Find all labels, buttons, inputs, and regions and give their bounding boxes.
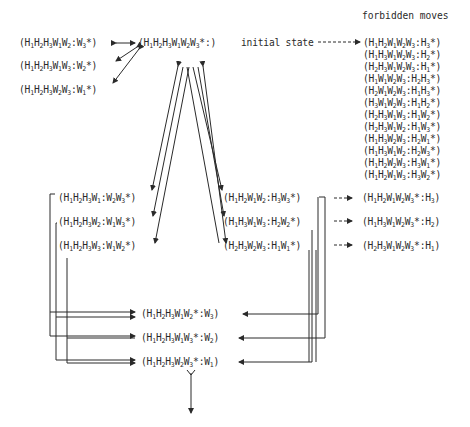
state-node: (H1H2H3W1W2*:W3)	[141, 308, 219, 323]
forbidden-move: (H1H2W1W3:H3W2*)	[363, 169, 441, 184]
forbidden-moves-title: forbidden moves	[362, 10, 449, 21]
initial-state-node: (H1H2H3W1W2W3*:)	[138, 37, 216, 52]
state-node: (H1H2W1W2:H3W3*)	[223, 192, 301, 207]
state-node: (H1H2H3W1W3:W2*)	[19, 60, 97, 75]
state-transition-diagram: forbidden moves (H1H2H3W1W2W3*:) initial…	[0, 0, 470, 427]
state-node: (H1H2H3W3:W1W2*)	[58, 240, 136, 255]
state-node: (H2H3W2W3:H1W1*)	[223, 240, 301, 255]
state-node: (H1H2H3W1:W2W3*)	[58, 192, 136, 207]
forbidden-move: (H1H3W1W2W3*:H2)	[362, 216, 440, 231]
state-node: (H1H2H3W2:W1W3*)	[58, 216, 136, 231]
state-node: (H1H2H3W1W3*:W2)	[141, 332, 219, 347]
state-node: (H1H2H3W2W3:W1*)	[19, 84, 97, 99]
forbidden-move: (H2H3W1W2W3*:H1)	[362, 240, 440, 255]
initial-state-label: initial state	[241, 37, 314, 48]
forbidden-move: (H1H2W1W2W3*:H3)	[362, 192, 440, 207]
state-node: (H1H2H3W2W3*:W1)	[141, 356, 219, 371]
state-node: (H1H2H3W1W2:W3*)	[19, 37, 97, 52]
state-node: (H1H3W1W3:H2W2*)	[223, 216, 301, 231]
